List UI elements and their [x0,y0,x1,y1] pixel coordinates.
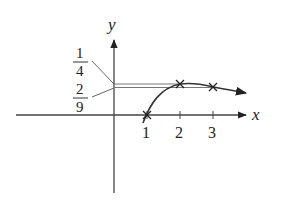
function-curve [143,83,246,123]
leader-quarter [92,61,114,84]
fraction-quarter-numerator: 1 [76,45,84,61]
y-axis-label: y [106,15,116,34]
x-tick-label-3: 3 [208,124,216,141]
x-tick-label-1: 1 [142,124,150,141]
fraction-quarter-denominator: 4 [76,63,84,79]
fraction-quarter: 1 4 [73,45,88,79]
x-axis-label: x [251,105,260,124]
x-tick-label-2: 2 [175,124,183,141]
fraction-twoninths: 2 9 [73,81,88,115]
fraction-twoninths-numerator: 2 [76,81,84,97]
fraction-twoninths-denominator: 9 [76,99,84,115]
graph-canvas: y x 1 2 3 1 4 2 9 [0,0,281,206]
leader-twoninths [92,88,114,97]
